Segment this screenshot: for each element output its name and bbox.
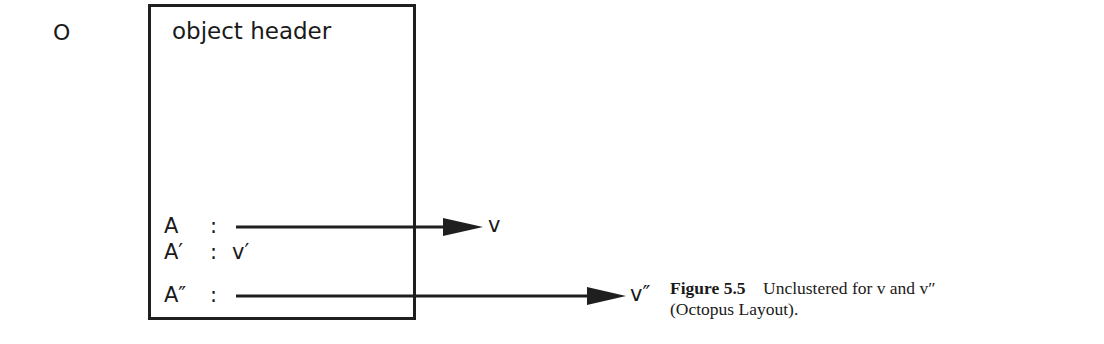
caption-text-line1: Unclustered for v and v″ — [763, 278, 936, 298]
figure-caption: Figure 5.5 Unclustered for v and v″ (Oct… — [670, 278, 936, 320]
target-v-double-prime: v″ — [630, 282, 650, 306]
caption-label: Figure 5.5 — [670, 278, 746, 298]
target-v: v — [488, 213, 500, 237]
arrow-a-to-v — [236, 218, 483, 236]
pointer-arrows — [0, 0, 1104, 344]
caption-text-line2: (Octopus Layout). — [670, 299, 936, 320]
arrow-a-double-prime-to-v-double-prime — [236, 287, 626, 305]
